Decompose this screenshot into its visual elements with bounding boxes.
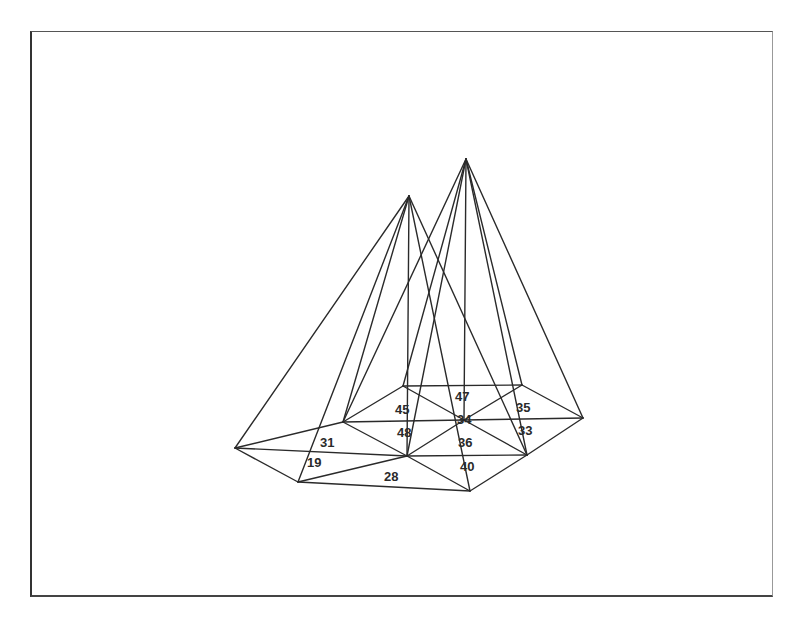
mesh-edge bbox=[527, 418, 583, 455]
pyramid-edge bbox=[464, 159, 466, 420]
vertex-label: 34 bbox=[457, 412, 472, 427]
vertex-label: 45 bbox=[395, 402, 409, 417]
wireframe-canvas: 4745353448333136194028 bbox=[0, 0, 805, 623]
vertex-label: 48 bbox=[397, 425, 411, 440]
vertex-label: 19 bbox=[307, 455, 321, 470]
pyramid-edges bbox=[235, 159, 583, 491]
mesh-edge bbox=[343, 420, 464, 422]
mesh-edge bbox=[407, 455, 527, 456]
pyramid-edge bbox=[298, 196, 409, 482]
mesh-edge bbox=[464, 418, 583, 420]
pyramid-edge bbox=[407, 196, 409, 456]
vertex-label: 36 bbox=[458, 435, 472, 450]
pyramid-edge bbox=[466, 159, 522, 385]
vertex-label: 47 bbox=[455, 389, 469, 404]
mesh-edge bbox=[470, 455, 527, 491]
vertex-label: 35 bbox=[516, 400, 530, 415]
vertex-labels: 4745353448333136194028 bbox=[307, 389, 532, 484]
vertex-label: 28 bbox=[384, 469, 398, 484]
pyramid-edge bbox=[466, 159, 583, 418]
mesh-edge bbox=[407, 420, 464, 456]
pyramid-edge bbox=[235, 196, 409, 448]
mesh-edge bbox=[522, 385, 583, 418]
vertex-label: 33 bbox=[518, 423, 532, 438]
vertex-label: 31 bbox=[320, 435, 334, 450]
vertex-label: 40 bbox=[460, 459, 474, 474]
mesh-edge bbox=[235, 448, 298, 482]
